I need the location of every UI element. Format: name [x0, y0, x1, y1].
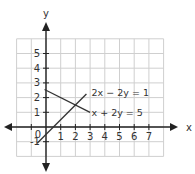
labels: xy02x − 2y = 1x + 2y = 5: [35, 8, 192, 140]
origin-label: 0: [35, 129, 41, 140]
x-axis-label: x: [186, 122, 192, 133]
y-tick-label: 5: [34, 48, 40, 59]
y-tick-label: 2: [34, 92, 40, 103]
x-tick-label: 1: [58, 131, 64, 142]
y-axis-label: y: [43, 8, 49, 19]
y-tick-label: 3: [34, 77, 40, 88]
x-tick-label: 4: [102, 131, 108, 142]
y-tick-label: 1: [34, 107, 40, 118]
x-axis-right-arrow-icon: [170, 123, 178, 131]
equation-label-1: 2x − 2y = 1: [92, 87, 149, 98]
coordinate-graph: 1234567-112345 xy02x − 2y = 1x + 2y = 5: [0, 0, 195, 174]
y-axis-up-arrow-icon: [42, 22, 50, 31]
x-tick-label: 5: [116, 131, 122, 142]
equation-label-2: x + 2y = 5: [92, 107, 143, 118]
x-tick-label: 7: [146, 131, 152, 142]
x-axis-left-arrow-icon: [4, 123, 12, 131]
y-tick-label: 4: [34, 63, 40, 74]
x-tick-label: 6: [131, 131, 137, 142]
equation-line-1: [45, 90, 91, 113]
x-tick-label: 3: [87, 131, 93, 142]
y-axis-down-arrow-icon: [42, 163, 50, 172]
x-tick-label: 2: [72, 131, 78, 142]
